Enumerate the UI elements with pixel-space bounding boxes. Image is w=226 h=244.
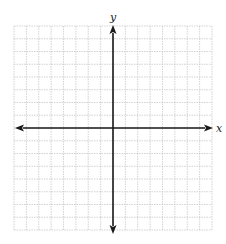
y-axis-label: y bbox=[109, 11, 117, 24]
axes bbox=[15, 25, 213, 234]
coordinate-plane: x y bbox=[0, 0, 226, 244]
x-axis-label: x bbox=[216, 122, 223, 135]
